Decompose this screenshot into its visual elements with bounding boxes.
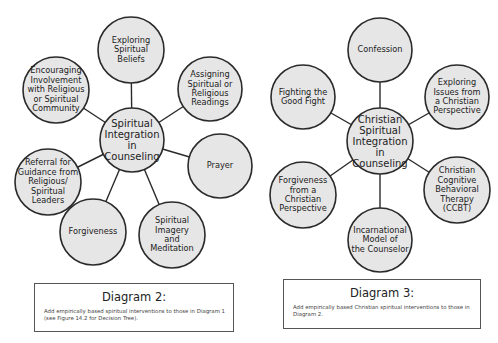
diagram-2-caption-title: Diagram 2: (35, 290, 233, 304)
diagram-2-caption-text: Add empirically based spiritual interven… (44, 308, 227, 322)
diagram-3-caption-title: Diagram 3: (284, 286, 480, 300)
node-label: Referral for Guidance from Religious/ Sp… (15, 149, 81, 215)
center-node-label: Christian Spiritual Integration in Couns… (347, 108, 413, 174)
node-label: Exploring Issues from a Christian Perspe… (425, 65, 489, 129)
node-label: Christian Cognitive Behavioral Therapy (… (424, 157, 490, 223)
node-label: Encouraging Involvement with Religious o… (23, 57, 89, 123)
node-label: Forgiveness from a Christian Perspective (270, 162, 336, 228)
node-label: Assigning Spiritual or Religious Reading… (178, 57, 242, 121)
node-label: Prayer (188, 134, 252, 198)
diagram-3-caption-text: Add empirically based Christian spiritua… (293, 304, 474, 318)
node-label: Incarnational Model of the Counselor (348, 208, 412, 272)
diagram-3-caption: Diagram 3: Add empirically based Christi… (283, 279, 481, 329)
node-label: Exploring Spiritual Beliefs (98, 17, 164, 83)
diagram-2-caption: Diagram 2: Add empirically based spiritu… (34, 283, 234, 332)
node-label: Spiritual Imagery and Meditation (139, 202, 205, 268)
node-label: Confession (348, 18, 412, 82)
center-node-label: Spiritual Integration in Counseling (100, 108, 164, 172)
node-label: Fighting the Good Fight (271, 65, 335, 129)
